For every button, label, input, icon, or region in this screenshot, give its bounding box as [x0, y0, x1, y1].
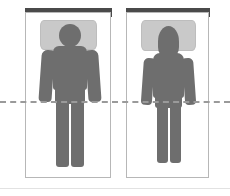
left-figure-leg-right	[71, 100, 84, 167]
left-figure-head	[59, 24, 81, 47]
left-figure-leg-left	[56, 100, 69, 167]
right-figure-leg-right	[170, 103, 181, 163]
hip-alignment-line	[0, 101, 230, 103]
illustration-canvas	[0, 0, 230, 196]
right-figure-leg-left	[157, 103, 168, 163]
left-figure-torso	[53, 46, 87, 90]
bottom-divider	[0, 188, 230, 189]
